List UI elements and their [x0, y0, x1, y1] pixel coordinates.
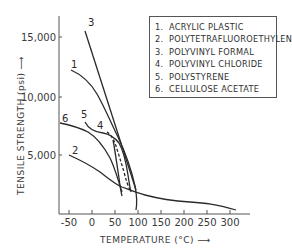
x-tick-label: 50 — [109, 217, 122, 228]
y-axis-title: TENSILE STRENGTH (psi) ⟶ — [16, 56, 26, 196]
x-tick-label: -50 — [61, 217, 77, 228]
legend: 1.ACRYLIC PLASTIC 2.POLYTETRAFLUOROETHYL… — [149, 16, 277, 98]
curve-label-4: 4 — [97, 120, 103, 131]
curve-label-1: 1 — [71, 59, 77, 70]
x-tick-label: 100 — [128, 217, 147, 228]
y-tick-label: 15,000 — [21, 32, 56, 43]
legend-item: 1.ACRYLIC PLASTIC — [155, 21, 276, 33]
x-axis-title: TEMPERATURE (°C) ⟶ — [99, 235, 211, 245]
curve-label-2: 2 — [72, 145, 78, 156]
legend-item: 5.POLYSTYRENE — [155, 71, 276, 83]
legend-item: 6.CELLULOSE ACETATE — [155, 83, 276, 95]
legend-item: 3.POLYVINYL FORMAL — [155, 46, 276, 58]
curve-3-polyvinyl-formal — [85, 31, 136, 190]
curve-label-5: 5 — [81, 109, 87, 120]
x-ticks — [69, 210, 230, 214]
y-tick-label: 10,000 — [21, 92, 56, 103]
y-tick-label: 5,000 — [27, 150, 56, 161]
curve-label-3: 3 — [88, 17, 94, 28]
x-tick-label: 200 — [174, 217, 193, 228]
x-tick-label: 300 — [220, 217, 239, 228]
x-tick-label: 250 — [197, 217, 216, 228]
curve-label-6: 6 — [62, 113, 68, 124]
curve-2-polytetrafluoroethylene — [69, 155, 236, 210]
legend-item: 2.POLYTETRAFLUOROETHYLENE — [155, 33, 276, 45]
x-tick-label: 0 — [89, 217, 95, 228]
legend-item: 4.POLYVINYL CHLORIDE — [155, 58, 276, 70]
x-tick-label: 150 — [151, 217, 170, 228]
